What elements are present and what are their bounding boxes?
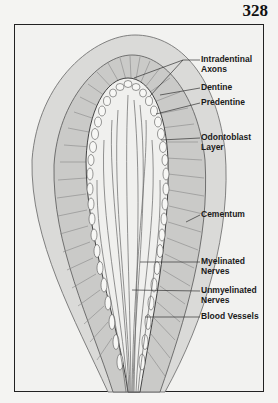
label-predentine: Predentine [201,98,245,108]
label-unmyelinated-nerves: Unmyelinated Nerves [201,286,257,305]
label-cementum: Cementum [201,210,245,220]
label-odontoblast-layer: Odontoblast Layer [201,133,251,152]
label-blood-vessels: Blood Vessels [201,312,259,322]
label-myelinated-nerves: Myelinated Nerves [201,257,245,276]
label-dentine: Dentine [201,83,232,93]
label-intradentinal-axons: Intradentinal Axons [201,55,252,74]
